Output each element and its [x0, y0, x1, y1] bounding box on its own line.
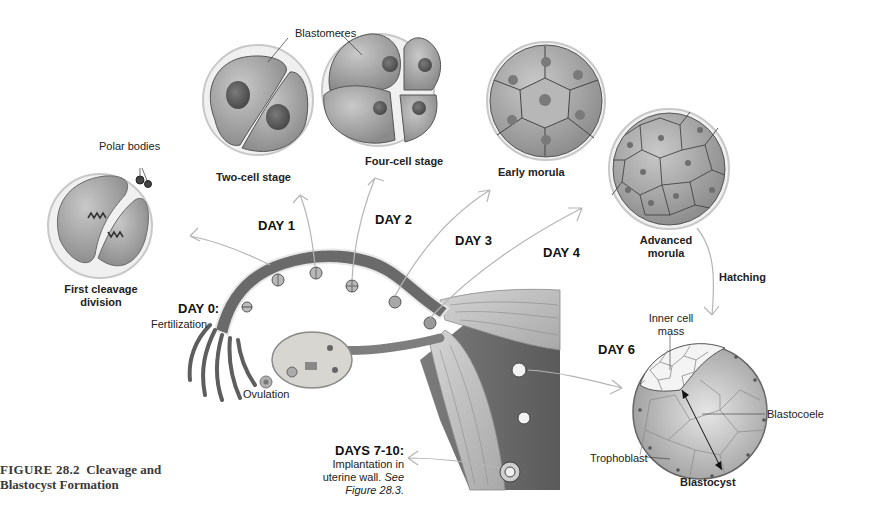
early-morula-label: Early morula	[498, 166, 565, 179]
hatching-label: Hatching	[719, 271, 766, 284]
trophoblast-label: Trophoblast	[590, 452, 648, 465]
four-cell-embryo	[322, 33, 441, 146]
advanced-morula-label: Advanced morula	[626, 234, 706, 260]
first-cleavage-line2: division	[46, 296, 156, 309]
blastocoele-label: Blastocoele	[767, 408, 824, 421]
two-cell-embryo	[203, 38, 313, 155]
first-cleavage-embryo	[48, 168, 152, 278]
implantation-line2: uterine wall. See	[300, 471, 404, 484]
figure-title-line2: Blastocyst Formation	[0, 477, 161, 492]
implantation-see: See	[384, 471, 404, 483]
implantation-line2-text: uterine wall.	[323, 471, 382, 483]
two-cell-stage-label: Two-cell stage	[216, 171, 291, 184]
advanced-morula-line2: morula	[626, 247, 706, 260]
inner-cell-mass-line1: Inner cell	[641, 312, 701, 325]
implantation-figure-ref: Figure 28.3.	[300, 484, 404, 497]
polar-bodies-label: Polar bodies	[99, 140, 160, 153]
four-cell-stage-label: Four-cell stage	[365, 155, 443, 168]
day0-label: DAY 0:	[178, 301, 219, 316]
figure-caption: FIGURE 28.2 Cleavage and Blastocyst Form…	[0, 462, 161, 492]
blastocyst-label: Blastocyst	[680, 476, 736, 489]
blastocyst-embryo	[633, 334, 767, 479]
days7-10-block: DAYS 7-10: Implantation in uterine wall.…	[300, 443, 404, 497]
advanced-morula-embryo	[609, 109, 729, 229]
figure-number: FIGURE 28.2	[0, 462, 80, 477]
day3-label: DAY 3	[455, 233, 492, 248]
inner-cell-mass-label: Inner cell mass	[641, 312, 701, 338]
ovulation-label: Ovulation	[243, 388, 289, 401]
first-cleavage-line1: First cleavage	[46, 283, 156, 296]
days7-10-label: DAYS 7-10:	[300, 443, 404, 458]
advanced-morula-line1: Advanced	[626, 234, 706, 247]
fertilization-label: Fertilization	[151, 318, 207, 331]
day6-label: DAY 6	[598, 342, 635, 357]
implantation-line1: Implantation in	[300, 458, 404, 471]
first-cleavage-label: First cleavage division	[46, 283, 156, 309]
day2-label: DAY 2	[375, 212, 412, 227]
day1-label: DAY 1	[258, 218, 295, 233]
cleavage-diagram-artwork	[0, 0, 869, 521]
figure-title-line1: Cleavage and	[86, 462, 161, 477]
blastomeres-label: Blastomeres	[295, 27, 356, 40]
inner-cell-mass-line2: mass	[641, 325, 701, 338]
day4-label: DAY 4	[543, 245, 580, 260]
early-morula-embryo	[487, 42, 605, 160]
